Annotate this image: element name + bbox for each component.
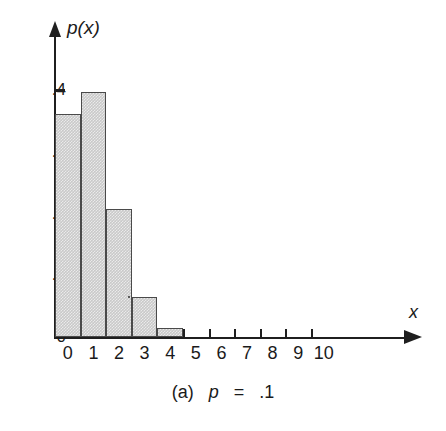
caption-equals-sign: = (234, 382, 245, 402)
x-axis-tick-label: 10 (304, 343, 344, 363)
y-axis-tick-mark (56, 89, 65, 92)
x-axis-arrow-icon (404, 330, 422, 344)
histogram-bar (81, 92, 107, 337)
x-axis-tick-mark (209, 329, 211, 338)
histogram-bar (55, 114, 81, 337)
caption-prefix: (a) (172, 382, 194, 402)
caption-parameter-value: .1 (259, 382, 274, 402)
x-axis-tick-mark (183, 329, 185, 338)
histogram-bar (157, 328, 183, 337)
caption-parameter-symbol: p (209, 382, 219, 402)
y-axis-title: p(x) (67, 17, 100, 39)
y-axis-arrow-icon (49, 21, 61, 37)
figure-binomial-histogram: p(x) x 0.1.2.3.4 012345678910 (a) p = .1 (0, 0, 446, 431)
figure-caption: (a) p = .1 (0, 382, 446, 403)
x-axis-tick-mark (234, 329, 236, 338)
histogram-bar (132, 297, 158, 337)
x-axis-title: x (409, 302, 418, 323)
histogram-bar (106, 209, 132, 337)
print-speck-artifact (128, 296, 130, 298)
x-axis-tick-mark (260, 329, 262, 338)
chart-plot-area: p(x) x 0.1.2.3.4 012345678910 (0, 0, 446, 431)
x-axis-tick-mark (311, 329, 313, 338)
x-axis-tick-mark (285, 329, 287, 338)
